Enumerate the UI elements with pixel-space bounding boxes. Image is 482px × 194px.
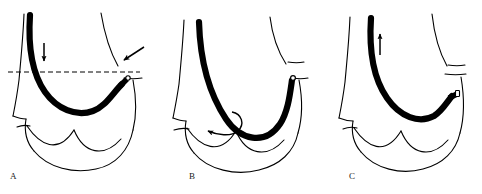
tip-pointer-arrow-a [124,47,144,60]
inner-fold-left-b [187,128,236,147]
instrument-shaft-c [371,18,452,119]
figure-illustration [0,0,482,194]
cavity-outline-left-b [185,121,194,153]
inner-fold-right-c [401,131,448,152]
left-fold-tick-b [173,118,186,121]
instrument-shaft-b [199,22,292,138]
panel-c [339,14,466,171]
inner-fold-right-a [74,130,121,151]
instrument-tip-dot-b [291,76,296,81]
right-ledge-b [288,62,304,63]
right-ledge-c [448,65,465,66]
instrument-tip-a [120,79,127,86]
right-wall-outline-c [432,14,447,66]
right-wall-outline-a [101,13,118,66]
cavity-outline-left-a [25,119,34,151]
inner-fold-left-a [27,126,74,145]
left-fold-tick-a [13,116,26,119]
panel-label-a: A [10,172,17,181]
instrument-tip-dot-a [126,76,130,80]
panel-a [8,13,144,171]
right-wall-lower-a [133,80,136,130]
panel-b [173,17,308,172]
right-wall-outline-b [270,17,286,64]
cavity-bottom-arc-c [361,133,460,171]
right-ledge2-c [445,74,466,75]
right-wall-lower-c [460,77,464,133]
instrument-shaft-a [29,15,122,113]
left-wall-outline-a [13,14,24,116]
inner-fold-left-c [354,128,401,147]
cavity-outline-left-c [352,121,361,152]
left-fold-tick-c [339,118,353,121]
left-wall-outline-b [173,20,184,118]
right-wall-lower-b [298,80,302,133]
figure-container: A B C [0,0,482,194]
instrument-tip-dot-c [456,91,460,97]
panel-label-c: C [349,172,355,181]
cavity-bottom-arc-a [34,130,133,171]
panel-label-b: B [189,172,195,181]
left-wall-outline-c [339,17,350,118]
